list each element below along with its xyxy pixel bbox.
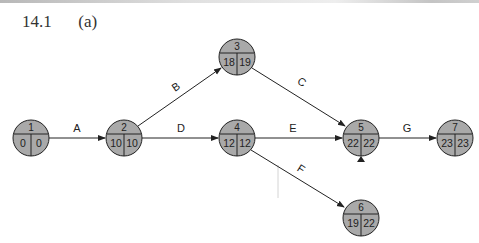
network-diagram: A B C D E F G 1 0 0 2 10 10 <box>0 0 479 243</box>
node-3: 3 18 19 <box>219 39 255 75</box>
node-4-id: 4 <box>234 122 240 133</box>
node-3-id: 3 <box>234 41 240 52</box>
node-1-es: 0 <box>20 137 26 149</box>
edge-g: G <box>379 122 436 138</box>
node-2: 2 10 10 <box>106 120 142 156</box>
node-3-ls: 19 <box>239 56 251 68</box>
node-5-ls: 22 <box>363 137 375 149</box>
edge-label-e: E <box>289 122 296 134</box>
edge-label-d: D <box>177 122 185 134</box>
node-7: 7 23 23 <box>437 120 473 156</box>
node-2-id: 2 <box>121 122 127 133</box>
node-7-es: 23 <box>441 137 453 149</box>
edge-label-b: B <box>169 80 182 94</box>
edge-b: B <box>138 68 221 126</box>
node-4-es: 12 <box>223 137 235 149</box>
node-2-ls: 10 <box>126 137 138 149</box>
edge-label-c: C <box>296 74 309 88</box>
node-6-id: 6 <box>358 202 364 213</box>
triangle-marker-icon <box>357 156 365 162</box>
node-5-id: 5 <box>358 122 364 133</box>
node-5: 5 22 22 <box>343 120 379 156</box>
node-6-es: 19 <box>347 217 359 229</box>
node-6: 6 19 22 <box>343 200 379 236</box>
node-4: 4 12 12 <box>219 120 255 156</box>
edge-label-f: F <box>295 162 307 176</box>
node-1-id: 1 <box>28 122 34 133</box>
edge-c: C <box>252 68 345 126</box>
node-7-ls: 23 <box>457 137 469 149</box>
node-6-ls: 22 <box>363 217 375 229</box>
edge-label-g: G <box>403 122 412 134</box>
node-4-ls: 12 <box>239 137 251 149</box>
node-7-id: 7 <box>452 122 458 133</box>
edge-label-a: A <box>73 122 81 134</box>
edge-a: A <box>49 122 105 138</box>
node-2-es: 10 <box>110 137 122 149</box>
node-1-ls: 0 <box>36 137 42 149</box>
edge-f: F <box>251 150 344 207</box>
edge-e: E <box>255 122 342 138</box>
edge-d: D <box>142 122 218 138</box>
node-1: 1 0 0 <box>13 120 49 156</box>
node-3-es: 18 <box>223 56 235 68</box>
node-5-es: 22 <box>347 137 359 149</box>
